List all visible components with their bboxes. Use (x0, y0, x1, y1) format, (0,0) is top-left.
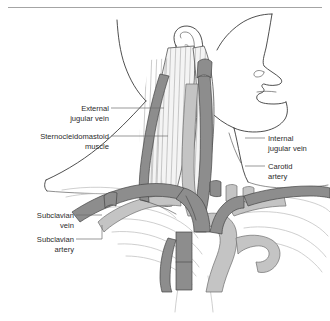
artery-trunk-lower-right (236, 235, 280, 272)
label-external-jugular-vein-line1: External (81, 104, 109, 113)
label-subclavian-artery-line2: artery (55, 245, 75, 254)
label-subclavian-vein-line2: vein (60, 221, 74, 230)
label-sternocleidomastoid-line1: Sternocleidomastoid (40, 132, 109, 141)
label-carotid-artery-line2: artery (268, 172, 288, 181)
internal-jugular-vein-upper (197, 59, 212, 78)
label-sternocleidomastoid-line2: muscle (85, 142, 109, 151)
vein-right-shoulder (244, 186, 330, 206)
leader-subclavian-artery (76, 225, 102, 239)
label-carotid-artery-line1: Carotid (268, 162, 292, 171)
vein-stump-superior-a (210, 181, 221, 197)
label-internal-jugular-vein-line1: Internal (268, 134, 294, 143)
label-subclavian-vein-line1: Subclavian (37, 211, 74, 220)
superior-vena-cava (176, 232, 192, 290)
label-internal-jugular-vein-line2: jugular vein (267, 144, 307, 153)
anatomy-illustration: External jugular vein Sternocleidomastoi… (0, 0, 330, 321)
anatomy-figure: External jugular vein Sternocleidomastoi… (0, 0, 330, 321)
veins (72, 59, 330, 292)
vein-lower-left (160, 238, 176, 292)
label-external-jugular-vein-line2: jugular vein (69, 114, 109, 123)
label-subclavian-artery-line1: Subclavian (37, 235, 74, 244)
